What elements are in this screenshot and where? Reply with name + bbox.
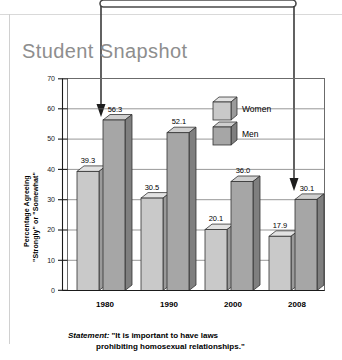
legend-swatch-women [213, 97, 237, 120]
y-axis-label-line2: "Strongly" or "Somewhat" [32, 172, 39, 262]
x-label-2000: 2000 [211, 300, 255, 309]
bar-women-1980 [77, 166, 106, 291]
y-axis-label-line1: Percentage Agreeing [23, 175, 30, 247]
value-men-1980: 56.3 [98, 105, 132, 114]
value-men-2008: 30.1 [290, 184, 324, 193]
y-tick-30: 30 [39, 196, 55, 203]
x-label-2008: 2008 [275, 300, 319, 309]
y-axis [58, 79, 68, 291]
bar-men-2000 [231, 176, 260, 291]
bar-women-1990 [141, 193, 170, 291]
legend-label-women: Women [242, 104, 271, 114]
bar-group-2008 [269, 194, 324, 291]
value-women-1980: 39.3 [71, 156, 105, 165]
bar-women-2008 [269, 231, 298, 291]
y-tick-20: 20 [39, 226, 55, 233]
bar-men-2008 [295, 194, 324, 291]
bar-group-1980 [77, 115, 132, 291]
y-tick-60: 60 [39, 105, 55, 112]
legend-swatch-men [213, 122, 237, 145]
figure-caption: Statement: "It is important to have laws… [68, 330, 336, 352]
caption-line-2: prohibiting homosexual relationships." [96, 341, 336, 352]
y-tick-10: 10 [39, 257, 55, 264]
value-men-1990: 52.1 [162, 117, 196, 126]
caption-statement-label: Statement: [68, 331, 109, 340]
bar-men-1990 [167, 127, 196, 290]
caption-line-1: "It is important to have laws [112, 331, 218, 340]
value-women-1990: 30.5 [135, 183, 169, 192]
x-label-1980: 1980 [83, 300, 127, 309]
bar-men-1980 [103, 115, 132, 291]
bar-group-2000 [205, 176, 260, 291]
bar-women-2000 [205, 224, 234, 290]
x-label-1990: 1990 [147, 300, 191, 309]
bar-group-1990 [141, 127, 196, 290]
value-men-2000: 36.0 [226, 166, 260, 175]
y-tick-70: 70 [39, 75, 55, 82]
legend-label-men: Men [242, 129, 259, 139]
value-women-2000: 20.1 [199, 214, 233, 223]
y-tick-50: 50 [39, 135, 55, 142]
value-women-2008: 17.9 [263, 221, 297, 230]
y-tick-40: 40 [39, 166, 55, 173]
y-tick-0: 0 [39, 287, 55, 294]
